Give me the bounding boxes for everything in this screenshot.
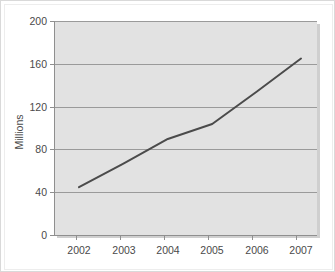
x-tick-label-2003: 2003 — [112, 244, 136, 256]
chart-frame: 200 160 120 80 40 0 2002 2003 2004 2005 … — [0, 0, 335, 272]
y-axis-title: Millions — [13, 114, 25, 149]
y-tick-label-0: 0 — [41, 229, 47, 241]
y-tick-labels: 200 160 120 80 40 0 — [29, 15, 47, 241]
x-tick-label-2007: 2007 — [289, 244, 313, 256]
y-tick-label-160: 160 — [29, 58, 47, 70]
x-tick-label-2004: 2004 — [156, 244, 180, 256]
x-tick-label-2002: 2002 — [67, 244, 91, 256]
line-chart: 200 160 120 80 40 0 2002 2003 2004 2005 … — [5, 5, 334, 271]
chart-canvas: 200 160 120 80 40 0 2002 2003 2004 2005 … — [4, 4, 333, 270]
y-tick-label-40: 40 — [35, 186, 47, 198]
x-tick-label-2006: 2006 — [245, 244, 269, 256]
y-tick-label-120: 120 — [29, 101, 47, 113]
x-tick-labels: 2002 2003 2004 2005 2006 2007 — [67, 244, 313, 256]
y-tick-marks — [50, 22, 54, 236]
y-tick-label-200: 200 — [29, 15, 47, 27]
y-tick-label-80: 80 — [35, 143, 47, 155]
x-tick-label-2005: 2005 — [200, 244, 224, 256]
plot-area-background — [54, 21, 317, 235]
